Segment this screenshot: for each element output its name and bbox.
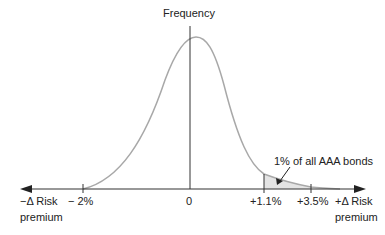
- right-arrowhead-icon: [354, 185, 366, 193]
- right-axis-label-line1: +Δ Risk: [335, 195, 373, 207]
- right-axis-label-line2: premium: [335, 211, 378, 223]
- annotation-label: 1% of all AAA bonds: [274, 155, 373, 167]
- tick-label-11: +1.1%: [250, 195, 282, 207]
- left-axis-label-line1: −Δ Risk: [20, 195, 58, 207]
- y-axis-label: Frequency: [163, 7, 215, 19]
- left-arrowhead-icon: [20, 185, 32, 193]
- tick-label-neg2: − 2%: [68, 195, 93, 207]
- tick-label-0: 0: [186, 195, 192, 207]
- annotation-arrow: [280, 167, 290, 181]
- tick-label-35: +3.5%: [297, 195, 329, 207]
- left-axis-label-line2: premium: [20, 211, 63, 223]
